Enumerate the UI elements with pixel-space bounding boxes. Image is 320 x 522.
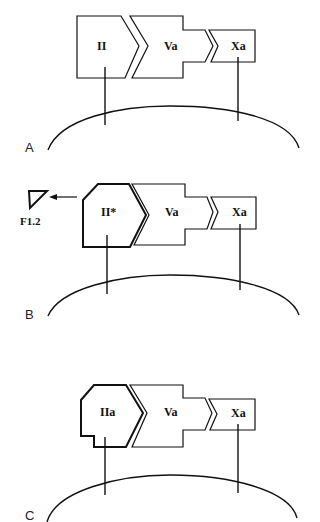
protein-label-xa: Xa [231, 406, 246, 420]
protein-label-va: Va [164, 405, 178, 419]
membrane-arc-c [47, 475, 297, 522]
protein-label-ii-star: II* [101, 205, 116, 219]
panel-label-b: B [25, 307, 34, 322]
panel-b [29, 184, 299, 316]
membrane-arc-b [48, 275, 299, 316]
panel-a [48, 16, 299, 150]
panel-label-a: A [25, 140, 34, 155]
triangle-fragment-shape [29, 191, 47, 208]
arrow-head-icon [49, 194, 57, 200]
prothrombin-shape [77, 16, 139, 78]
protein-label-xa: Xa [231, 39, 246, 53]
panel-label-c: C [25, 508, 34, 522]
membrane-arc-a [48, 106, 299, 150]
protein-label-va: Va [164, 39, 178, 53]
protein-label-xa: Xa [232, 205, 247, 219]
fragment-label: F1.2 [20, 215, 41, 227]
protein-label-va: Va [165, 205, 179, 219]
protein-label-ii: II [97, 39, 107, 53]
protein-label-iia: IIa [100, 405, 115, 419]
prothrombinase-diagram: A II Va Xa B F1.2 II* Va Xa C IIa Va Xa [0, 0, 320, 522]
